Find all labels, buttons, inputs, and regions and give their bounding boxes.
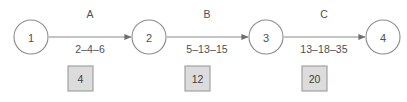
node-3: 3 — [249, 20, 283, 54]
node-4-label: 4 — [380, 32, 386, 44]
edge-c-estimates: 13–18–35 — [300, 43, 348, 55]
edge-a-label: A — [86, 8, 93, 20]
node-4: 4 — [366, 20, 400, 54]
edge-b-label: B — [203, 8, 210, 20]
diagram-canvas: A 2–4–6 B 5–13–15 C 13–18–35 1 2 3 — [0, 0, 407, 102]
edge-group-b: B 5–13–15 — [167, 8, 248, 55]
node-1: 1 — [14, 20, 48, 54]
duration-box-c: 20 — [302, 66, 327, 91]
duration-box-b: 12 — [185, 66, 210, 91]
edge-c-label: C — [320, 8, 328, 20]
node-2-label: 2 — [146, 32, 152, 44]
edge-a-estimates: 2–4–6 — [75, 43, 105, 55]
duration-box-a-value: 4 — [78, 73, 84, 85]
duration-box-a: 4 — [68, 66, 93, 91]
node-1-label: 1 — [28, 32, 34, 44]
edge-b-estimates: 5–13–15 — [186, 43, 228, 55]
pert-network-diagram: A 2–4–6 B 5–13–15 C 13–18–35 1 2 3 — [0, 0, 407, 102]
duration-box-c-value: 20 — [309, 73, 321, 85]
edge-group-c: C 13–18–35 — [284, 8, 365, 55]
node-2: 2 — [132, 20, 166, 54]
duration-box-b-value: 12 — [192, 73, 204, 85]
node-3-label: 3 — [263, 32, 269, 44]
edge-group-a: A 2–4–6 — [49, 8, 131, 55]
